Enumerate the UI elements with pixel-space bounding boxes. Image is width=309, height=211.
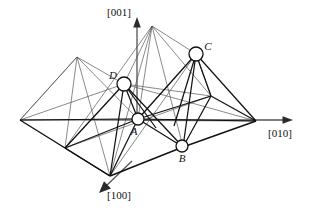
axis-001-label: [001] (107, 6, 131, 18)
atom-D-circle[interactable] (117, 77, 131, 91)
labels-group: A B C D [001] [010] [100] (107, 6, 292, 201)
axis-010-arrowhead (283, 116, 294, 124)
axis-100-label: [100] (107, 189, 131, 201)
base-edge-left-midleft (20, 120, 65, 148)
axis-010-label: [010] (268, 127, 292, 139)
base-edge-midfront-right (183, 121, 256, 147)
edge-left-D (20, 84, 124, 120)
lattice-svg: A B C D [001] [010] [100] (0, 0, 309, 211)
edge-C-B (183, 54, 196, 147)
edge-left-apex-dup (20, 57, 77, 120)
base-edge-bottom-midfront (110, 147, 183, 176)
edge-C-right (196, 54, 256, 121)
edge-centerapex-C (152, 26, 196, 54)
atom-A-circle[interactable] (132, 113, 144, 125)
edge-A-left (20, 119, 138, 120)
atom-C-label: C (204, 40, 212, 52)
atom-B-circle[interactable] (176, 140, 188, 152)
axes-group (99, 17, 293, 193)
atom-D-label: D (108, 69, 117, 81)
edge-centerapex-midleft (65, 26, 152, 148)
crystal-lattice-figure: A B C D [001] [010] [100] (0, 0, 309, 211)
atom-C-circle[interactable] (189, 47, 203, 61)
atom-A-label: A (130, 125, 138, 137)
axis-001-arrowhead (133, 17, 141, 28)
edge-midright-right (211, 96, 256, 121)
axis-100-line (105, 161, 132, 187)
edge-A-midleft (65, 119, 138, 148)
atom-B-label: B (179, 152, 186, 164)
base-outline-group (20, 120, 256, 176)
